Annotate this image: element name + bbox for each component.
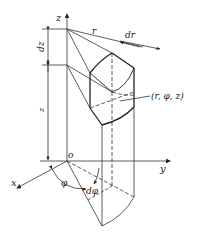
origin-label: o [68, 150, 74, 160]
x-axis [17, 161, 67, 188]
dphi-label: dφ [86, 186, 99, 196]
r-label: r [92, 26, 97, 36]
phi-label: φ [61, 178, 68, 188]
cylindrical-element-diagram: z y x o r dr dz z φ dφ (r, φ, z) [0, 0, 199, 242]
x-axis-label: x [11, 177, 17, 188]
point-label: (r, φ, z) [151, 91, 184, 101]
dz-label: dz [36, 41, 46, 52]
dr-dimension [120, 41, 160, 49]
z-axis-label: z [55, 12, 62, 23]
dr-label: dr [125, 30, 136, 40]
z-height-label: z [37, 107, 46, 113]
y-axis-label: y [159, 163, 166, 174]
